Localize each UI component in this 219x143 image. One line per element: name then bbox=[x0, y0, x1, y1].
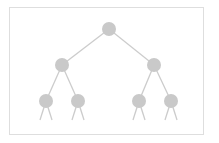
tree-node-lr bbox=[71, 94, 85, 108]
tree-node-r bbox=[147, 58, 161, 72]
tree-node-root bbox=[102, 22, 116, 36]
tree-edge-root-r bbox=[109, 29, 154, 65]
tree-node-l bbox=[55, 58, 69, 72]
binary-tree-diagram bbox=[0, 0, 219, 143]
tree-edge-root-l bbox=[62, 29, 109, 65]
tree-node-ll bbox=[39, 94, 53, 108]
tree-node-rl bbox=[132, 94, 146, 108]
tree-node-rr bbox=[164, 94, 178, 108]
